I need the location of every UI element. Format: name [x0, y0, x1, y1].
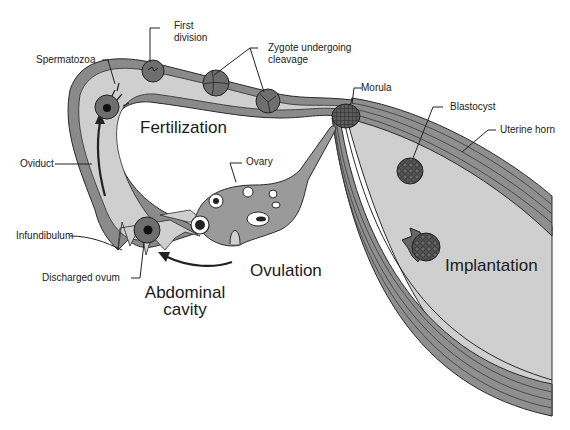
label-first-division-line2: division	[174, 32, 207, 43]
label-uterine-horn: Uterine horn	[500, 124, 555, 135]
label-implantation: Implantation	[445, 257, 538, 276]
label-first-division-line1: First	[174, 20, 193, 31]
reproductive-tract-diagram: Spermatozoa First division Zygote underg…	[0, 0, 570, 430]
label-zygote-line2: cleavage	[268, 54, 308, 65]
label-infundibulum: Infundibulum	[16, 230, 73, 241]
label-abdominal-cavity: Abdominal cavity	[144, 284, 226, 319]
label-ovulation: Ovulation	[250, 262, 322, 281]
label-blastocyst: Blastocyst	[450, 101, 496, 112]
label-spermatozoa: Spermatozoa	[36, 54, 95, 65]
label-oviduct: Oviduct	[20, 158, 54, 169]
implanting-blastocyst	[412, 233, 440, 261]
label-fertilization: Fertilization	[140, 119, 227, 138]
label-abdominal-line2: cavity	[144, 301, 226, 320]
zygote-cell-2	[256, 89, 280, 113]
ovulation-arrow	[165, 256, 232, 266]
blastocyst	[397, 158, 423, 184]
label-morula: Morula	[361, 82, 392, 93]
label-discharged-ovum: Discharged ovum	[42, 272, 120, 283]
label-ovary: Ovary	[246, 156, 273, 167]
morula	[332, 104, 360, 128]
ovary	[191, 126, 336, 246]
label-zygote-line1: Zygote undergoing	[268, 42, 351, 53]
first-division-cell	[142, 60, 164, 82]
